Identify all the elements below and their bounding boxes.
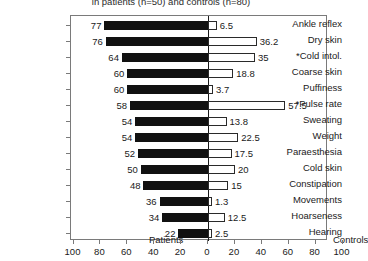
bar-controls	[208, 69, 233, 78]
bar-controls	[208, 165, 235, 174]
category-label: Cold skin	[276, 161, 342, 174]
bar-controls	[208, 133, 238, 142]
value-label-patients: 54	[122, 131, 133, 144]
value-label-patients: 52	[124, 147, 135, 160]
bar-patients	[143, 181, 208, 190]
bar-controls	[208, 213, 225, 222]
category-tick	[66, 137, 70, 138]
bar-controls	[208, 53, 255, 62]
x-axis-tick	[153, 240, 154, 244]
category-tick	[66, 105, 70, 106]
category-label: Hearing	[276, 225, 342, 238]
bar-patients	[104, 21, 208, 30]
category-tick	[66, 217, 70, 218]
value-label-controls: 12.5	[228, 211, 247, 224]
chart-title: in patients (n=50) and controls (n=80)	[0, 0, 342, 7]
bar-controls	[208, 181, 228, 190]
category-label: Dry skin	[276, 33, 342, 46]
category-label: Hoarseness	[276, 209, 342, 222]
category-tick	[66, 121, 70, 122]
bar-controls	[208, 117, 227, 126]
value-label-controls: 20	[238, 163, 249, 176]
value-label-patients: 54	[122, 115, 133, 128]
bar-patients	[160, 197, 208, 206]
x-axis-tick	[180, 240, 181, 244]
value-label-patients: 36	[146, 195, 157, 208]
value-label-patients: 48	[130, 179, 141, 192]
bar-patients	[162, 213, 208, 222]
value-label-controls: 15	[231, 179, 242, 192]
x-axis-tick	[73, 240, 74, 244]
bar-patients	[127, 69, 208, 78]
category-label: Ankle reflex	[276, 17, 342, 30]
x-axis-tick-label: 40	[138, 245, 168, 258]
value-label-patients: 77	[91, 19, 102, 32]
value-label-controls: 2.5	[215, 227, 228, 240]
bar-patients	[106, 37, 208, 46]
category-label: Sweating	[276, 113, 342, 126]
value-label-patients: 60	[114, 83, 125, 96]
category-label: Constipation	[276, 177, 342, 190]
x-axis-tick-label: 20	[165, 245, 195, 258]
category-label: Movements	[276, 193, 342, 206]
bar-controls	[208, 229, 212, 238]
value-label-patients: 76	[92, 35, 103, 48]
bar-patients	[138, 149, 208, 158]
value-label-controls: 1.3	[215, 195, 228, 208]
bar-patients	[130, 101, 208, 110]
bar-patients	[127, 85, 208, 94]
x-axis-tick-label: 60	[111, 245, 141, 258]
category-tick	[66, 153, 70, 154]
bar-controls	[208, 197, 212, 206]
x-axis-tick-label: 60	[273, 245, 303, 258]
category-tick	[66, 233, 70, 234]
value-label-controls: 6.5	[220, 19, 233, 32]
value-label-controls: 17.5	[235, 147, 254, 160]
value-label-controls: 35	[258, 51, 269, 64]
bar-patients	[135, 117, 208, 126]
bar-controls	[208, 149, 232, 158]
category-tick	[66, 57, 70, 58]
x-axis-tick	[315, 240, 316, 244]
value-label-patients: 64	[108, 51, 119, 64]
value-label-controls: 3.7	[216, 83, 229, 96]
x-axis-tick-label: 80	[84, 245, 114, 258]
category-tick	[66, 89, 70, 90]
x-axis-tick	[126, 240, 127, 244]
x-axis-tick-label: 80	[300, 245, 330, 258]
bar-controls	[208, 21, 217, 30]
x-axis-tick	[288, 240, 289, 244]
value-label-controls: 18.8	[236, 67, 255, 80]
category-label: *Pulse rate	[276, 97, 342, 110]
category-tick	[66, 169, 70, 170]
bar-patients	[122, 53, 208, 62]
value-label-controls: 22.5	[241, 131, 260, 144]
category-tick	[66, 201, 70, 202]
value-label-patients: 50	[127, 163, 138, 176]
value-label-patients: 58	[116, 99, 127, 112]
category-label: Weight	[276, 129, 342, 142]
x-axis-tick	[99, 240, 100, 244]
x-axis-tick	[207, 240, 208, 244]
category-tick	[66, 25, 70, 26]
bar-patients	[141, 165, 208, 174]
category-label: Paraesthesia	[276, 145, 342, 158]
bar-controls	[208, 85, 213, 94]
x-axis-tick-label: 40	[246, 245, 276, 258]
x-axis-tick	[342, 240, 343, 244]
category-tick	[66, 41, 70, 42]
category-label: *Cold intol.	[276, 49, 342, 62]
category-label: Puffiness	[276, 81, 342, 94]
x-axis-tick	[261, 240, 262, 244]
bar-patients	[135, 133, 208, 142]
x-axis-tick-label: 0	[192, 245, 222, 258]
bar-controls	[208, 37, 257, 46]
bar-controls	[208, 101, 285, 110]
value-label-controls: 13.8	[230, 115, 249, 128]
x-axis-tick-label: 100	[327, 245, 357, 258]
x-axis-tick-label: 20	[219, 245, 249, 258]
x-axis-tick	[234, 240, 235, 244]
category-tick	[66, 73, 70, 74]
value-label-patients: 60	[114, 67, 125, 80]
